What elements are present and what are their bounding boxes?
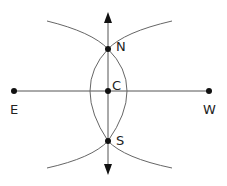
- perpendicular-bisector-diagram: N C S E W: [0, 0, 227, 186]
- arrow-down-icon: [104, 164, 112, 175]
- label-w: W: [203, 102, 216, 117]
- point-n: [105, 46, 111, 52]
- label-c: C: [112, 78, 121, 93]
- point-w: [206, 88, 212, 94]
- point-c: [105, 88, 111, 94]
- label-e: E: [10, 102, 18, 117]
- arrow-up-icon: [104, 12, 112, 23]
- label-s: S: [116, 133, 124, 148]
- point-s: [105, 138, 111, 144]
- point-e: [11, 88, 17, 94]
- label-n: N: [116, 39, 126, 54]
